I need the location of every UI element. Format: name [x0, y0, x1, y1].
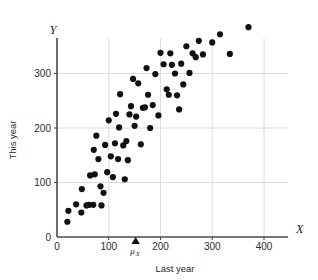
y-tick-label-100: 100 [34, 177, 51, 188]
data-point [145, 92, 151, 98]
data-point [128, 103, 134, 109]
data-point [106, 117, 112, 123]
data-point [91, 147, 97, 153]
x-axis-variable-name: X [295, 222, 304, 236]
data-point [92, 171, 98, 177]
data-point [112, 140, 118, 146]
data-point [98, 202, 104, 208]
data-point [122, 176, 128, 182]
data-point [123, 138, 129, 144]
data-point [196, 38, 202, 44]
data-point [142, 104, 148, 110]
x-tick-label-200: 200 [152, 241, 169, 252]
y-axis-variable-name: Y [50, 23, 58, 37]
y-tick-label-0: 0 [45, 232, 51, 243]
data-point [79, 186, 85, 192]
data-point [126, 111, 132, 117]
data-point [113, 111, 119, 117]
data-point [200, 51, 206, 57]
data-point [135, 80, 141, 86]
data-point [174, 92, 180, 98]
data-point [152, 71, 158, 77]
mu-x-marker [131, 237, 139, 244]
data-point [95, 156, 101, 162]
data-point [143, 65, 149, 71]
data-point [186, 70, 192, 76]
data-point [117, 91, 123, 97]
x-tick-label-0: 0 [54, 241, 60, 252]
data-point [93, 133, 99, 139]
y-tick-label-200: 200 [34, 123, 51, 134]
data-point [102, 142, 108, 148]
data-point [155, 112, 161, 118]
data-point [138, 141, 144, 147]
scatter-plot-canvas: 01002003004000100200300 μX XYLast yearTh… [0, 0, 318, 280]
data-point [73, 201, 79, 207]
data-point [150, 102, 156, 108]
data-point [193, 54, 199, 60]
data-point [132, 123, 138, 129]
data-point [133, 113, 139, 119]
data-point [100, 190, 106, 196]
data-point [116, 124, 122, 130]
mu-x-subscript: X [135, 250, 141, 257]
data-point [167, 50, 173, 56]
x-axis-title: Last year [155, 263, 194, 274]
mu-x-label: μ [129, 246, 135, 256]
data-points-group [64, 24, 251, 225]
tick-labels-group: 01002003004000100200300 [34, 68, 272, 252]
data-point [172, 70, 178, 76]
y-tick-label-300: 300 [34, 68, 51, 79]
data-point [245, 24, 251, 30]
tick-marks-group [54, 74, 264, 241]
data-point [90, 202, 96, 208]
data-point [169, 62, 175, 68]
data-point [64, 219, 70, 225]
data-point [164, 86, 170, 92]
x-tick-label-400: 400 [256, 241, 273, 252]
data-point [130, 76, 136, 82]
x-tick-label-300: 300 [204, 241, 221, 252]
data-point [180, 81, 186, 87]
data-point [166, 92, 172, 98]
data-point [161, 61, 167, 67]
data-point [78, 209, 84, 215]
data-point [110, 174, 116, 180]
data-point [115, 156, 121, 162]
data-point [108, 153, 114, 159]
scatter-plot-figure: 01002003004000100200300 μX XYLast yearTh… [0, 0, 318, 280]
data-point [97, 183, 103, 189]
data-point [227, 51, 233, 57]
annotations-group: μX [129, 237, 141, 257]
data-point [209, 39, 215, 45]
data-point [157, 50, 163, 56]
data-point [217, 31, 223, 37]
data-point [65, 208, 71, 214]
data-point [147, 125, 153, 131]
data-point [176, 106, 182, 112]
y-axis-title: This year [7, 120, 18, 159]
data-point [125, 157, 131, 163]
data-point [183, 43, 189, 49]
x-tick-label-100: 100 [100, 241, 117, 252]
data-point [178, 61, 184, 67]
data-point [104, 169, 110, 175]
